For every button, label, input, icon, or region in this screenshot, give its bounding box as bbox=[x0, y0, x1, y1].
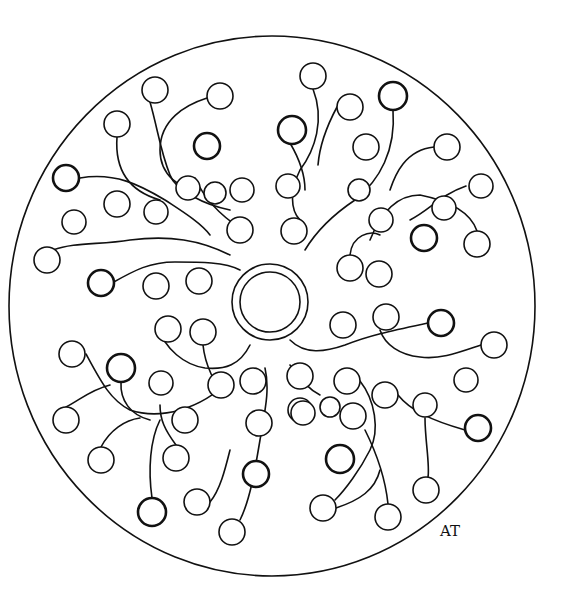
stem bbox=[66, 385, 110, 407]
ball-circle bbox=[330, 312, 356, 338]
ball-circle bbox=[310, 495, 336, 521]
ball-circle bbox=[337, 255, 363, 281]
ball-circle bbox=[287, 363, 313, 389]
ball-circle bbox=[326, 445, 354, 473]
stem bbox=[101, 418, 140, 447]
stem bbox=[425, 418, 428, 477]
stem bbox=[336, 470, 380, 508]
ball-circle bbox=[176, 176, 200, 200]
ball-circle bbox=[334, 368, 360, 394]
ball-circle bbox=[278, 116, 306, 144]
ball-circle bbox=[59, 341, 85, 367]
ball-circle bbox=[227, 217, 253, 243]
ball-circle bbox=[204, 182, 226, 204]
ball-circle bbox=[190, 319, 216, 345]
ball-circle bbox=[340, 403, 366, 429]
ball-circle bbox=[434, 134, 460, 160]
ball-circle bbox=[481, 332, 507, 358]
ball-circle bbox=[172, 407, 198, 433]
ball-circle bbox=[207, 83, 233, 109]
ball-circle bbox=[379, 82, 407, 110]
ball-circle bbox=[428, 310, 454, 336]
stem bbox=[150, 420, 160, 498]
stem bbox=[112, 262, 240, 283]
ball-circle bbox=[34, 247, 60, 273]
ball-circle bbox=[208, 372, 234, 398]
ball-circle bbox=[62, 210, 86, 234]
center-ring-inner bbox=[240, 272, 300, 332]
ball-circle bbox=[194, 133, 220, 159]
stem bbox=[365, 430, 388, 504]
ball-circle bbox=[149, 371, 173, 395]
stem bbox=[53, 238, 230, 255]
ball-circle bbox=[366, 261, 392, 287]
ball-circle bbox=[104, 111, 130, 137]
ball-circle bbox=[353, 134, 379, 160]
ball-circle bbox=[411, 225, 437, 251]
ball-circle bbox=[104, 191, 130, 217]
ball-circle bbox=[144, 200, 168, 224]
stem bbox=[210, 450, 230, 502]
ball-circle bbox=[240, 368, 266, 394]
stem bbox=[390, 147, 434, 190]
ball-circle bbox=[320, 397, 340, 417]
stem bbox=[121, 382, 150, 420]
stem bbox=[290, 323, 428, 351]
ball-circle bbox=[432, 196, 456, 220]
ball-circle bbox=[138, 498, 166, 526]
ball-circle bbox=[107, 354, 135, 382]
ball-circle bbox=[88, 270, 114, 296]
ball-circle bbox=[465, 415, 491, 441]
ball-circle bbox=[291, 401, 315, 425]
artist-signature: AT bbox=[439, 522, 460, 540]
ball-circle bbox=[163, 445, 189, 471]
ball-circle bbox=[454, 368, 478, 392]
ball-circle bbox=[184, 489, 210, 515]
stem bbox=[117, 137, 160, 200]
ball-circle bbox=[53, 165, 79, 191]
ball-circle bbox=[219, 519, 245, 545]
ball-circle bbox=[413, 393, 437, 417]
ball-circle bbox=[246, 410, 272, 436]
ball-circle bbox=[300, 63, 326, 89]
ball-circle bbox=[373, 304, 399, 330]
stem bbox=[350, 233, 380, 255]
ball-circle bbox=[372, 382, 398, 408]
ball-circle bbox=[281, 218, 307, 244]
ball-circle bbox=[464, 231, 490, 257]
stem bbox=[380, 330, 481, 358]
ball-circle bbox=[375, 504, 401, 530]
ball-circle bbox=[413, 477, 439, 503]
ball-circle bbox=[88, 447, 114, 473]
ball-circle bbox=[142, 77, 168, 103]
ball-circle bbox=[348, 179, 370, 201]
ball-circle bbox=[469, 174, 493, 198]
mandala-artwork: AT bbox=[0, 0, 573, 593]
ball-circle bbox=[369, 208, 393, 232]
ball-circle bbox=[143, 273, 169, 299]
ball-circle bbox=[230, 178, 254, 202]
ball-circle bbox=[276, 174, 300, 198]
ball-circle bbox=[53, 407, 79, 433]
stem bbox=[318, 107, 337, 165]
ball-circle bbox=[337, 94, 363, 120]
ball-circle bbox=[243, 461, 269, 487]
ball-circle bbox=[155, 316, 181, 342]
ball-circle bbox=[186, 268, 212, 294]
